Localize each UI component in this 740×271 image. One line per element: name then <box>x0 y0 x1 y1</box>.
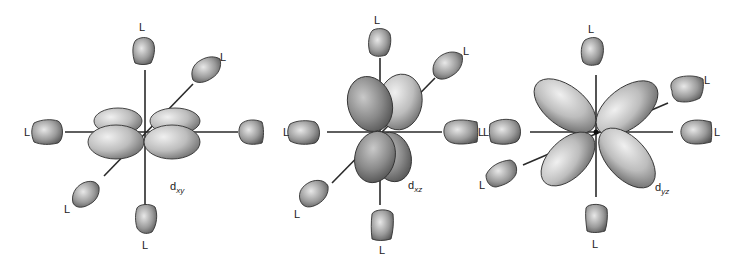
svg-text:L: L <box>24 126 30 138</box>
ligand-left: L <box>24 120 63 145</box>
ligand-upper-right: L <box>671 74 710 102</box>
ligand-right: L <box>444 120 484 144</box>
orbital-label-dyz: dyz <box>655 181 669 196</box>
svg-text:L: L <box>220 51 226 63</box>
orbital-label-dxy: dxy <box>170 180 185 195</box>
ligand-left: L <box>283 121 320 145</box>
svg-text:L: L <box>374 14 380 26</box>
svg-text:L: L <box>463 45 469 57</box>
svg-text:L: L <box>588 23 594 35</box>
svg-text:L: L <box>479 179 485 191</box>
svg-text:L: L <box>592 238 598 250</box>
metal-center <box>594 130 599 135</box>
svg-text:L: L <box>483 126 489 138</box>
ligand-lower-left: L <box>64 181 99 215</box>
svg-text:L: L <box>294 208 300 220</box>
ligand-bottom: L <box>136 204 157 251</box>
orbital-label-dxz: dxz <box>408 179 422 194</box>
panel-dxz: L L L L L L dxz <box>283 14 484 256</box>
svg-text:L: L <box>142 239 148 251</box>
ligand-bottom: L <box>586 204 608 250</box>
svg-text:L: L <box>714 126 720 138</box>
ligand-left: L <box>483 119 521 144</box>
ligand-bottom: L <box>371 210 393 256</box>
ligand-top: L <box>581 23 603 65</box>
ligand-upper-right: L <box>433 45 469 79</box>
svg-text:L: L <box>283 126 289 138</box>
ligand-top: L <box>369 14 391 56</box>
svg-text:L: L <box>139 21 145 33</box>
svg-text:L: L <box>704 74 710 86</box>
panel-dyz: L L L L L L dyz <box>479 23 720 250</box>
ligand-upper-right: L <box>192 51 226 82</box>
svg-text:L: L <box>379 244 385 256</box>
orbital-diagram: L L L L L dxy <box>0 0 740 271</box>
dxy-lobe-front-right <box>144 125 200 159</box>
ligand-lower-left: L <box>479 160 517 191</box>
ligand-top: L <box>133 21 155 65</box>
ligand-lower-left: L <box>294 180 328 220</box>
svg-text:L: L <box>64 203 70 215</box>
dxy-lobe-front-left <box>88 125 144 159</box>
ligand-right <box>239 120 264 144</box>
ligand-right: L <box>681 120 720 144</box>
panel-dxy: L L L L L dxy <box>24 21 264 251</box>
dyz-lobe-lower-left <box>531 122 605 196</box>
